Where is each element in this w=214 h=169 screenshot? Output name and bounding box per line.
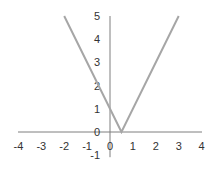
x-tick-label: 4	[199, 140, 205, 152]
y-tick-label: 4	[94, 33, 100, 45]
tick-labels: -4-3-2-101234-1012345	[14, 10, 205, 161]
y-tick-label: 1	[94, 103, 100, 115]
y-tick-label: -1	[90, 149, 100, 161]
y-tick-label: 3	[94, 56, 100, 68]
x-tick-label: 2	[153, 140, 159, 152]
series-line	[64, 16, 179, 132]
x-tick-label: 3	[176, 140, 182, 152]
x-tick-label: 0	[107, 140, 113, 152]
plot-area: -4-3-2-101234-1012345	[0, 0, 214, 169]
x-tick-label: -3	[36, 140, 46, 152]
y-tick-label: 0	[94, 126, 100, 138]
y-tick-label: 5	[94, 10, 100, 22]
x-tick-label: 1	[130, 140, 136, 152]
x-tick-label: -4	[14, 140, 24, 152]
data-series	[64, 16, 179, 132]
axes	[18, 16, 202, 157]
x-tick-label: -2	[59, 140, 69, 152]
chart: -4-3-2-101234-1012345	[0, 0, 214, 169]
